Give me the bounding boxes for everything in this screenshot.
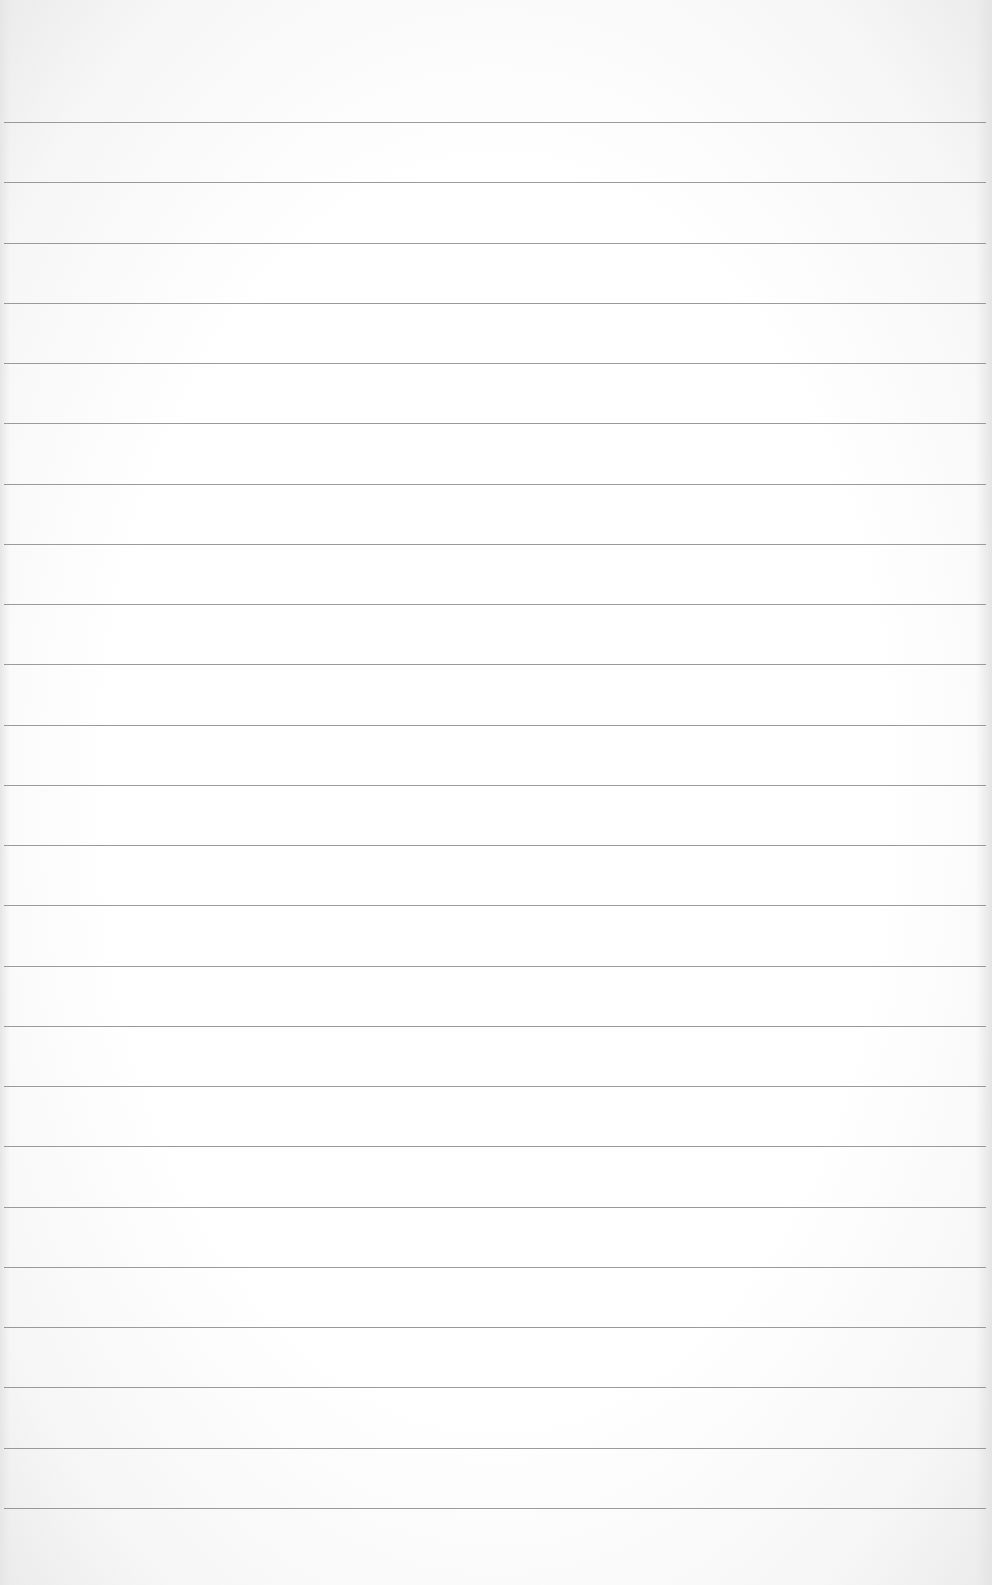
ruled-line [4,1086,986,1087]
ruled-line [4,1387,986,1388]
ruled-line [4,905,986,906]
ruled-line [4,1327,986,1328]
ruled-line [4,182,986,183]
ruled-line [4,1508,986,1509]
ruled-line [4,604,986,605]
ruled-line [4,544,986,545]
ruled-line [4,303,986,304]
ruled-line [4,725,986,726]
ruled-line [4,363,986,364]
ruled-line [4,1026,986,1027]
paper-left-edge-shadow [0,0,10,1585]
ruled-line [4,243,986,244]
lined-paper-sheet [0,0,992,1585]
ruled-line [4,966,986,967]
ruled-line [4,664,986,665]
ruled-line [4,1146,986,1147]
ruled-line [4,1207,986,1208]
ruled-line [4,785,986,786]
ruled-line [4,484,986,485]
ruled-line [4,122,986,123]
ruled-line [4,1448,986,1449]
ruled-line [4,845,986,846]
ruled-line [4,423,986,424]
paper-right-edge-shadow [976,0,992,1585]
ruled-line [4,1267,986,1268]
